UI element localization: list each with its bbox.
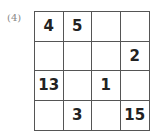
- grid-cell: 4: [35, 12, 64, 42]
- grid-cell: [92, 12, 121, 42]
- grid-cell: 2: [121, 42, 150, 72]
- grid-cell: [64, 71, 93, 101]
- grid-cell: 13: [35, 71, 64, 101]
- grid-cell: [121, 12, 150, 42]
- grid-cell: [121, 71, 150, 101]
- grid-cell: [35, 42, 64, 72]
- problem-number: (4): [7, 12, 21, 23]
- grid-cell: 5: [64, 12, 93, 42]
- grid-cell: [92, 42, 121, 72]
- grid-cell: 1: [92, 71, 121, 101]
- grid-cell: 15: [121, 101, 150, 131]
- grid-cell: [64, 42, 93, 72]
- grid-cell: [35, 101, 64, 131]
- grid-cell: 3: [64, 101, 93, 131]
- grid-cell: [92, 101, 121, 131]
- number-grid: 4 5 2 13 1 3 15: [34, 11, 150, 131]
